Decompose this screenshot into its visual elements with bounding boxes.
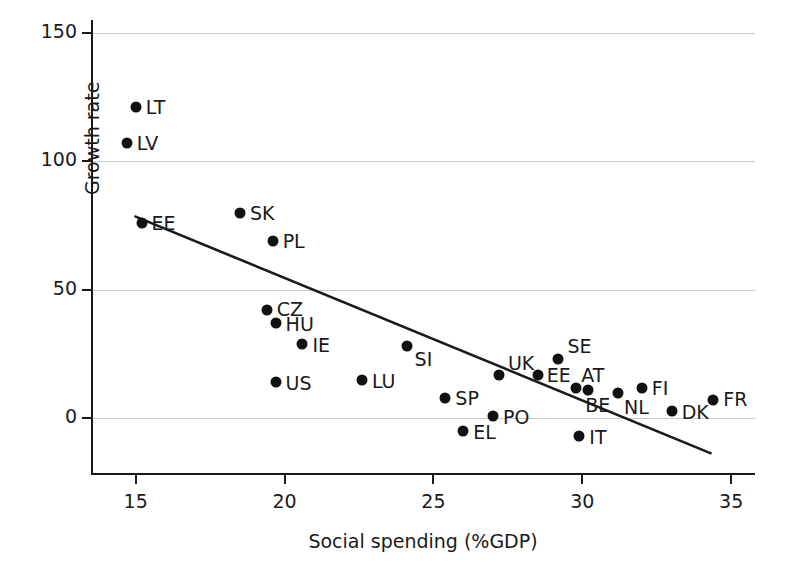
y-axis-tick-label: 150 — [41, 20, 77, 42]
y-axis-tick — [82, 32, 91, 34]
data-point — [666, 405, 677, 416]
y-axis-tick — [82, 417, 91, 419]
data-point — [261, 305, 272, 316]
chart-figure: 050100150 1520253035 LTLVEESKPLCZHUIEUSL… — [0, 0, 785, 580]
y-axis-label: Growth rate — [81, 82, 103, 195]
gridline — [93, 161, 755, 162]
data-point — [136, 218, 147, 229]
gridline — [93, 290, 755, 291]
x-axis-tick — [581, 475, 583, 484]
y-axis-tick-label: 50 — [53, 277, 77, 299]
x-axis-label: Social spending (%GDP) — [91, 530, 755, 552]
data-point-label: SK — [250, 202, 275, 224]
data-point-label: LV — [137, 132, 159, 154]
data-point — [356, 374, 367, 385]
data-point-label: FR — [723, 388, 747, 410]
data-point-label: DK — [682, 401, 709, 423]
x-axis-tick — [135, 475, 137, 484]
data-point-label: UK — [508, 352, 534, 374]
y-axis-tick — [82, 289, 91, 291]
data-point — [440, 392, 451, 403]
data-point — [401, 341, 412, 352]
data-point-label: PL — [283, 230, 305, 252]
data-point-label: LU — [372, 370, 396, 392]
data-point — [121, 138, 132, 149]
data-point — [270, 318, 281, 329]
data-point — [571, 382, 582, 393]
data-point-label: LT — [146, 96, 166, 118]
data-point — [130, 102, 141, 113]
y-axis-tick-label: 100 — [41, 148, 77, 170]
data-point — [532, 369, 543, 380]
data-point — [493, 369, 504, 380]
data-point-label: EL — [473, 421, 496, 443]
data-point-label: HU — [286, 313, 314, 335]
data-point-label: NL — [624, 396, 649, 418]
data-point — [267, 236, 278, 247]
x-axis-tick-label: 35 — [719, 490, 743, 512]
data-point — [636, 382, 647, 393]
x-axis-tick — [432, 475, 434, 484]
gridline — [93, 418, 755, 419]
data-point — [574, 431, 585, 442]
x-axis-tick — [730, 475, 732, 484]
data-point-label: FI — [652, 377, 669, 399]
data-point-label: SP — [455, 387, 479, 409]
data-point-label: IT — [589, 426, 606, 448]
data-point — [708, 395, 719, 406]
x-axis-tick — [284, 475, 286, 484]
data-point-label: IE — [312, 334, 330, 356]
trendline — [91, 20, 755, 475]
data-point-label: PO — [503, 406, 529, 428]
x-axis-tick-label: 30 — [570, 490, 594, 512]
data-point-label: SI — [415, 348, 433, 370]
plot-area: 050100150 1520253035 LTLVEESKPLCZHUIEUSL… — [91, 20, 755, 475]
data-point — [270, 377, 281, 388]
data-point-label: SE — [567, 335, 591, 357]
x-axis-tick-label: 15 — [124, 490, 148, 512]
data-point-label: EE — [152, 212, 176, 234]
data-point-label: AT — [581, 364, 604, 386]
data-point — [234, 207, 245, 218]
data-point — [613, 387, 624, 398]
y-axis-tick-label: 0 — [65, 405, 77, 427]
data-point — [458, 426, 469, 437]
data-point-label: US — [286, 372, 312, 394]
x-axis-tick-label: 25 — [421, 490, 445, 512]
data-point-label: BE — [585, 394, 610, 416]
gridline — [93, 33, 755, 34]
data-point-label: EE — [547, 364, 571, 386]
x-axis-line — [91, 473, 755, 475]
data-point — [487, 410, 498, 421]
x-axis-tick-label: 20 — [272, 490, 296, 512]
data-point — [297, 338, 308, 349]
